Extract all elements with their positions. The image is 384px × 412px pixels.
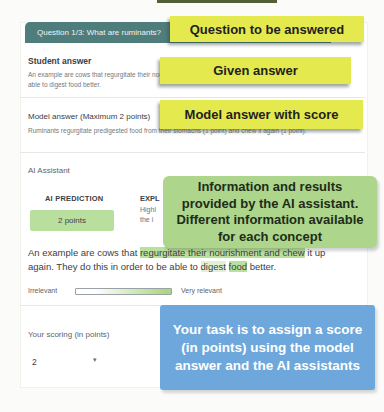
answer-highlighted-segment: regurgitate their nourishment and chew xyxy=(140,247,305,258)
answer-highlighted-segment: digest xyxy=(201,261,226,272)
relevance-left-label: Irrelevant xyxy=(28,287,57,294)
explanation-text-fragment: the i xyxy=(140,216,153,223)
annotation-task-callout: Your task is to assign a score (in point… xyxy=(160,305,375,390)
ai-prediction-label: AI PREDICTION xyxy=(45,194,103,203)
student-answer-text-line2: able to digest food better. xyxy=(28,80,101,90)
student-answer-heading: Student answer xyxy=(28,56,91,66)
model-answer-heading: Model answer (Maximum 2 points) xyxy=(28,112,150,121)
annotated-grading-ui: Question 1/3: What are ruminants? Studen… xyxy=(0,0,384,412)
chevron-down-icon[interactable]: ▾ xyxy=(93,356,97,364)
relevance-right-label: Very relevant xyxy=(181,287,222,294)
annotation-ai-info-callout: Information and results provided by the … xyxy=(163,176,377,248)
answer-text-segment: An example are cows that xyxy=(28,247,140,258)
student-answer-text-line1: An example are cows that regurgitate the… xyxy=(28,70,163,80)
annotation-given-answer-callout: Given answer xyxy=(160,57,351,84)
annotation-question-callout: Question to be answered xyxy=(170,16,364,42)
ai-prediction-value-badge: 2 points xyxy=(30,210,114,231)
answer-highlighted-segment: food xyxy=(229,261,248,272)
explanation-text-fragment: Highl xyxy=(140,206,156,213)
highlighted-student-answer: An example are cows that regurgitate the… xyxy=(28,246,343,274)
explanation-label-fragment: EXPL xyxy=(140,194,160,203)
ai-assistant-heading: AI Assistant xyxy=(28,166,70,175)
answer-text-segment: better. xyxy=(247,261,276,272)
annotation-model-answer-callout: Model answer with score xyxy=(160,100,363,129)
relevance-gradient-bar xyxy=(75,288,172,295)
scoring-label: Your scoring (in points) xyxy=(28,330,110,339)
section-divider xyxy=(20,97,365,98)
cropped-top-strip xyxy=(157,0,277,3)
section-divider xyxy=(20,152,365,153)
score-dropdown[interactable]: 2 xyxy=(32,357,37,367)
